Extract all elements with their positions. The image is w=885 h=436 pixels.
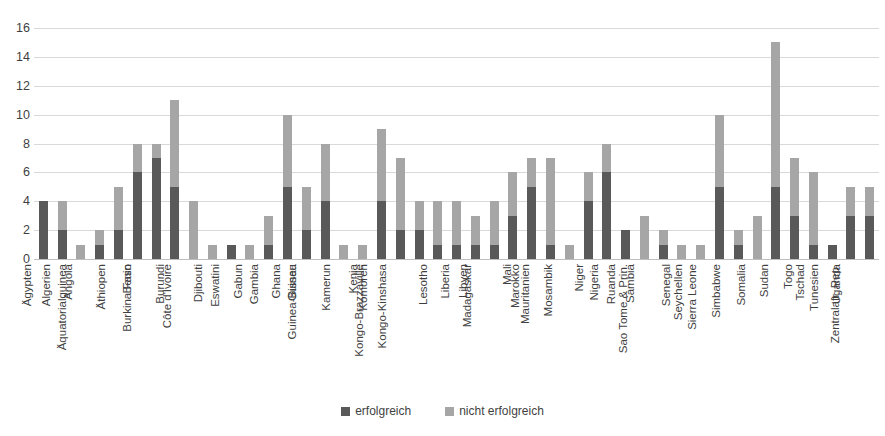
bar-segment-nicht-erfolgreich[interactable] [659, 230, 668, 244]
bar-segment-nicht-erfolgreich[interactable] [95, 230, 104, 244]
bar-segment-erfolgreich[interactable] [490, 245, 499, 259]
bar-segment-erfolgreich[interactable] [95, 245, 104, 259]
bar-stack[interactable] [677, 245, 686, 259]
bar-segment-erfolgreich[interactable] [508, 216, 517, 259]
bar-stack[interactable] [790, 158, 799, 259]
bar-segment-nicht-erfolgreich[interactable] [508, 172, 517, 215]
bar-segment-erfolgreich[interactable] [809, 245, 818, 259]
bar-segment-erfolgreich[interactable] [527, 187, 536, 259]
bar-segment-nicht-erfolgreich[interactable] [471, 216, 480, 245]
bar-segment-nicht-erfolgreich[interactable] [584, 172, 593, 201]
bar-segment-erfolgreich[interactable] [133, 172, 142, 259]
bar-segment-nicht-erfolgreich[interactable] [602, 144, 611, 173]
bar-stack[interactable] [76, 245, 85, 259]
bar-stack[interactable] [846, 187, 855, 259]
bar-segment-nicht-erfolgreich[interactable] [433, 201, 442, 244]
bar-stack[interactable] [227, 245, 236, 259]
bar-segment-nicht-erfolgreich[interactable] [771, 42, 780, 186]
bar-stack[interactable] [133, 144, 142, 260]
bar-stack[interactable] [114, 187, 123, 259]
bar-stack[interactable] [264, 216, 273, 259]
bar-stack[interactable] [715, 115, 724, 259]
bar-segment-nicht-erfolgreich[interactable] [339, 245, 348, 259]
bar-stack[interactable] [170, 100, 179, 259]
bar-segment-erfolgreich[interactable] [715, 187, 724, 259]
bar-segment-erfolgreich[interactable] [302, 230, 311, 259]
bar-segment-nicht-erfolgreich[interactable] [396, 158, 405, 230]
bar-stack[interactable] [640, 216, 649, 259]
bar-segment-erfolgreich[interactable] [415, 230, 424, 259]
bar-segment-nicht-erfolgreich[interactable] [302, 187, 311, 230]
bar-stack[interactable] [565, 245, 574, 259]
bar-segment-nicht-erfolgreich[interactable] [715, 115, 724, 187]
bar-stack[interactable] [339, 245, 348, 259]
bar-stack[interactable] [546, 158, 555, 259]
bar-stack[interactable] [508, 172, 517, 259]
bar-stack[interactable] [809, 172, 818, 259]
bar-stack[interactable] [659, 230, 668, 259]
bar-segment-nicht-erfolgreich[interactable] [58, 201, 67, 230]
bar-segment-erfolgreich[interactable] [452, 245, 461, 259]
bar-stack[interactable] [734, 230, 743, 259]
bar-segment-nicht-erfolgreich[interactable] [152, 144, 161, 158]
bar-stack[interactable] [771, 42, 780, 259]
bar-segment-erfolgreich[interactable] [584, 201, 593, 259]
bar-segment-nicht-erfolgreich[interactable] [358, 245, 367, 259]
bar-stack[interactable] [189, 201, 198, 259]
bar-segment-erfolgreich[interactable] [58, 230, 67, 259]
bar-segment-nicht-erfolgreich[interactable] [846, 187, 855, 216]
bar-stack[interactable] [358, 245, 367, 259]
bar-segment-erfolgreich[interactable] [828, 245, 837, 259]
bar-segment-nicht-erfolgreich[interactable] [245, 245, 254, 259]
bar-segment-erfolgreich[interactable] [621, 230, 630, 259]
bar-segment-nicht-erfolgreich[interactable] [133, 144, 142, 173]
bar-segment-nicht-erfolgreich[interactable] [377, 129, 386, 201]
bar-segment-nicht-erfolgreich[interactable] [734, 230, 743, 244]
bar-stack[interactable] [433, 201, 442, 259]
bar-stack[interactable] [302, 187, 311, 259]
bar-segment-nicht-erfolgreich[interactable] [170, 100, 179, 187]
bar-stack[interactable] [396, 158, 405, 259]
bar-stack[interactable] [828, 245, 837, 259]
bar-segment-erfolgreich[interactable] [39, 201, 48, 259]
bar-segment-nicht-erfolgreich[interactable] [264, 216, 273, 245]
bar-segment-nicht-erfolgreich[interactable] [114, 187, 123, 230]
bar-stack[interactable] [490, 201, 499, 259]
bar-segment-erfolgreich[interactable] [321, 201, 330, 259]
bar-segment-nicht-erfolgreich[interactable] [565, 245, 574, 259]
bar-segment-nicht-erfolgreich[interactable] [677, 245, 686, 259]
bar-stack[interactable] [245, 245, 254, 259]
bar-stack[interactable] [602, 144, 611, 260]
bar-segment-erfolgreich[interactable] [377, 201, 386, 259]
bar-stack[interactable] [39, 201, 48, 259]
bar-segment-erfolgreich[interactable] [433, 245, 442, 259]
bar-segment-nicht-erfolgreich[interactable] [415, 201, 424, 230]
bar-stack[interactable] [415, 201, 424, 259]
bar-segment-erfolgreich[interactable] [659, 245, 668, 259]
bar-segment-nicht-erfolgreich[interactable] [809, 172, 818, 244]
bar-stack[interactable] [621, 230, 630, 259]
bar-segment-nicht-erfolgreich[interactable] [283, 115, 292, 187]
bar-segment-erfolgreich[interactable] [283, 187, 292, 259]
bar-segment-erfolgreich[interactable] [114, 230, 123, 259]
bar-segment-erfolgreich[interactable] [865, 216, 874, 259]
bar-stack[interactable] [283, 115, 292, 259]
bar-segment-erfolgreich[interactable] [264, 245, 273, 259]
bar-segment-nicht-erfolgreich[interactable] [546, 158, 555, 245]
bar-stack[interactable] [58, 201, 67, 259]
bar-stack[interactable] [865, 187, 874, 259]
bar-segment-nicht-erfolgreich[interactable] [696, 245, 705, 259]
bar-segment-nicht-erfolgreich[interactable] [189, 201, 198, 259]
bar-segment-erfolgreich[interactable] [846, 216, 855, 259]
bar-segment-erfolgreich[interactable] [771, 187, 780, 259]
bar-segment-nicht-erfolgreich[interactable] [790, 158, 799, 216]
bar-segment-erfolgreich[interactable] [152, 158, 161, 259]
bar-segment-nicht-erfolgreich[interactable] [452, 201, 461, 244]
bar-segment-erfolgreich[interactable] [396, 230, 405, 259]
bar-stack[interactable] [696, 245, 705, 259]
bar-segment-erfolgreich[interactable] [546, 245, 555, 259]
legend-item[interactable]: erfolgreich [341, 404, 411, 418]
bar-stack[interactable] [527, 158, 536, 259]
bar-segment-nicht-erfolgreich[interactable] [76, 245, 85, 259]
bar-segment-erfolgreich[interactable] [602, 172, 611, 259]
